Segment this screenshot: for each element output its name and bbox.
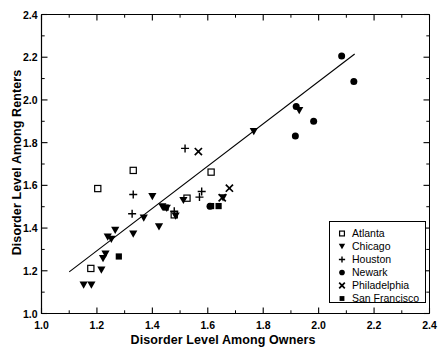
plus-icon	[337, 253, 352, 266]
data-point	[116, 253, 122, 259]
data-point	[111, 227, 119, 234]
filled-circle-icon	[337, 266, 352, 279]
data-point	[87, 281, 95, 288]
data-points-group	[80, 52, 358, 288]
data-point	[97, 267, 105, 274]
legend-item-label: Newark	[352, 266, 388, 279]
legend-list: AtlantaChicagoHoustonNewarkPhiladelphiaS…	[330, 222, 425, 305]
legend-item-chicago[interactable]: Chicago	[337, 240, 425, 253]
legend-item-label: Atlanta	[352, 227, 385, 240]
legend-item-newark[interactable]: Newark	[337, 266, 425, 279]
x-tick-label: 1.4	[132, 319, 172, 331]
marker-open-square	[340, 231, 345, 236]
data-point	[88, 265, 94, 271]
data-point	[130, 167, 136, 173]
marker-filled-square	[340, 296, 345, 301]
data-point	[155, 223, 163, 230]
open-square-icon	[337, 227, 352, 240]
data-point	[129, 191, 137, 199]
data-point	[195, 148, 202, 155]
legend-item-label: Houston	[352, 253, 391, 266]
marker-plus	[339, 256, 345, 262]
data-point	[292, 133, 299, 140]
data-point	[95, 185, 101, 191]
legend-item-philadelphia[interactable]: Philadelphia	[337, 279, 425, 292]
series-newark	[207, 52, 358, 209]
legend-item-label: Chicago	[352, 240, 391, 253]
filled-square-icon	[337, 292, 352, 305]
filled-triangle-down-icon	[337, 240, 352, 253]
data-point	[350, 78, 357, 85]
data-point	[338, 52, 345, 59]
x-tick-label: 2.2	[354, 319, 394, 331]
data-point	[181, 144, 189, 152]
marker-filled-circle	[339, 270, 345, 276]
x-tick-label: 1.2	[77, 319, 117, 331]
series-chicago	[80, 107, 304, 289]
x-tick-label: 1.6	[188, 319, 228, 331]
legend: AtlantaChicagoHoustonNewarkPhiladelphiaS…	[329, 221, 426, 303]
marker-filled-triangle-down	[339, 244, 345, 250]
y-axis-title: Disorder Level Among Renters	[6, 0, 28, 355]
x-axis-title: Disorder Level Among Owners	[0, 333, 446, 347]
x-tick-label: 2.4	[410, 319, 446, 331]
data-point	[148, 193, 156, 200]
y-axis-title-wrapper: Disorder Level Among Renters	[6, 0, 28, 355]
data-point	[129, 230, 137, 237]
marker-x-cross	[339, 283, 345, 289]
data-point	[80, 281, 88, 288]
x-tick-label: 1.8	[243, 319, 283, 331]
data-point	[215, 203, 221, 209]
legend-item-san-francisco[interactable]: San Francisco	[337, 292, 425, 305]
data-point	[250, 128, 258, 135]
legend-item-label: San Francisco	[352, 292, 419, 305]
data-point	[310, 118, 317, 125]
x-cross-icon	[337, 279, 352, 292]
data-point	[208, 169, 214, 175]
legend-item-houston[interactable]: Houston	[337, 253, 425, 266]
data-point	[293, 103, 300, 110]
data-point	[208, 203, 214, 209]
data-point	[163, 204, 169, 210]
data-point	[226, 185, 233, 192]
series-atlanta	[88, 167, 214, 271]
legend-item-atlanta[interactable]: Atlanta	[337, 227, 425, 240]
data-point	[128, 210, 136, 218]
x-tick-label: 2.0	[299, 319, 339, 331]
scatter-plot-figure: 1.01.21.41.61.82.02.22.4 1.01.21.41.61.8…	[0, 0, 446, 355]
data-point	[140, 214, 148, 221]
legend-item-label: Philadelphia	[352, 279, 409, 292]
